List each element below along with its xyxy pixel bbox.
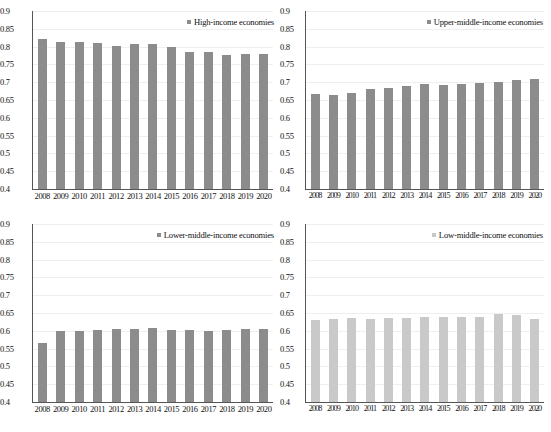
x-axis-labels: 2008200920102011201220132014201520162017… bbox=[306, 192, 544, 200]
y-axis-tick-label: 0.75 bbox=[280, 60, 303, 69]
x-axis-tick-label: 2013 bbox=[398, 405, 416, 413]
bar bbox=[148, 44, 157, 189]
x-axis-tick-label: 2010 bbox=[70, 192, 88, 201]
bar-slot bbox=[218, 11, 236, 189]
bar-series bbox=[33, 11, 273, 189]
y-axis-tick-label: 0.8 bbox=[0, 42, 30, 51]
x-axis-tick-label: 2017 bbox=[471, 192, 489, 200]
y-axis-tick-label: 0.4 bbox=[0, 398, 30, 407]
bar bbox=[494, 82, 503, 190]
x-axis-tick-label: 2020 bbox=[526, 192, 544, 200]
bar-slot bbox=[144, 224, 162, 402]
legend-label: High-income economies bbox=[194, 18, 274, 27]
y-axis-tick-label: 0.65 bbox=[280, 96, 303, 105]
y-axis-tick-label: 0.5 bbox=[0, 149, 30, 158]
bar-series bbox=[33, 224, 273, 402]
bar bbox=[130, 44, 139, 189]
x-axis-line bbox=[32, 189, 273, 190]
bar bbox=[311, 320, 320, 402]
x-axis-tick-label: 2012 bbox=[107, 405, 125, 414]
bar-slot bbox=[306, 224, 324, 402]
x-axis-line bbox=[32, 402, 273, 403]
y-axis-tick-label: 0.65 bbox=[0, 96, 30, 105]
bar bbox=[204, 52, 213, 189]
bar bbox=[93, 330, 102, 402]
bar-slot bbox=[254, 11, 272, 189]
y-axis-tick-label: 0.4 bbox=[0, 185, 30, 194]
panel-lower-middle-income: 0.90.850.80.750.70.650.60.550.50.450.420… bbox=[0, 210, 280, 432]
y-axis-tick-label: 0.4 bbox=[280, 398, 303, 407]
y-axis-tick-label: 0.7 bbox=[280, 78, 303, 87]
bar-slot bbox=[70, 224, 88, 402]
x-axis-tick-label: 2011 bbox=[361, 192, 379, 200]
bar bbox=[530, 319, 539, 402]
x-axis-tick-label: 2015 bbox=[434, 405, 452, 413]
bar-slot bbox=[218, 224, 236, 402]
bar-slot bbox=[379, 11, 397, 189]
y-axis-tick-label: 0.8 bbox=[280, 255, 303, 264]
bar-slot bbox=[199, 224, 217, 402]
bar-slot bbox=[434, 11, 452, 189]
bar-slot bbox=[88, 11, 106, 189]
bar bbox=[384, 88, 393, 189]
y-axis-tick-label: 0.55 bbox=[0, 131, 30, 140]
bar-slot bbox=[471, 11, 489, 189]
y-axis-tick-label: 0.65 bbox=[280, 309, 303, 318]
bar bbox=[494, 314, 503, 402]
bar bbox=[241, 329, 250, 402]
x-axis-line bbox=[305, 402, 544, 403]
y-axis-tick-label: 0.45 bbox=[0, 167, 30, 176]
x-axis-tick-label: 2014 bbox=[144, 192, 162, 201]
y-axis-tick-label: 0.75 bbox=[0, 60, 30, 69]
bar bbox=[457, 317, 466, 402]
bar bbox=[75, 331, 84, 402]
x-axis-tick-label: 2017 bbox=[199, 405, 217, 414]
legend-label: Low-middle-income economies bbox=[439, 231, 543, 240]
x-axis-tick-label: 2009 bbox=[51, 405, 69, 414]
bar bbox=[259, 329, 268, 402]
bar bbox=[475, 83, 484, 189]
panel-high-income: 0.90.850.80.750.70.650.60.550.50.450.420… bbox=[0, 0, 280, 210]
bar bbox=[475, 317, 484, 402]
y-axis-tick-label: 0.6 bbox=[0, 327, 30, 336]
bar-slot bbox=[397, 224, 415, 402]
x-axis-tick-label: 2013 bbox=[398, 192, 416, 200]
x-axis-labels: 2008200920102011201220132014201520162017… bbox=[33, 405, 273, 414]
y-axis-tick-label: 0.6 bbox=[280, 327, 303, 336]
x-axis-tick-label: 2010 bbox=[343, 405, 361, 413]
bar bbox=[439, 317, 448, 402]
bar bbox=[185, 52, 194, 189]
bar bbox=[130, 329, 139, 402]
bar-slot bbox=[125, 11, 143, 189]
bar bbox=[366, 89, 375, 189]
bar bbox=[112, 329, 121, 402]
bar bbox=[347, 318, 356, 402]
bar-slot bbox=[181, 11, 199, 189]
y-axis-tick-label: 0.4 bbox=[280, 185, 303, 194]
bar bbox=[167, 47, 176, 189]
bar-slot bbox=[88, 224, 106, 402]
bar-slot bbox=[416, 11, 434, 189]
legend-swatch-icon bbox=[187, 20, 191, 24]
bar-slot bbox=[507, 11, 525, 189]
bar bbox=[530, 79, 539, 189]
x-axis-tick-label: 2017 bbox=[199, 192, 217, 201]
bar-slot bbox=[162, 11, 180, 189]
y-axis-tick-label: 0.8 bbox=[280, 42, 303, 51]
panel-upper-middle-income: 0.90.850.80.750.70.650.60.550.50.450.420… bbox=[280, 0, 551, 210]
bar bbox=[384, 318, 393, 402]
bar-slot bbox=[416, 224, 434, 402]
y-axis-tick-label: 0.85 bbox=[0, 25, 30, 34]
bar-slot bbox=[236, 11, 254, 189]
x-axis-tick-label: 2015 bbox=[162, 405, 180, 414]
bar-slot bbox=[181, 224, 199, 402]
x-axis-tick-label: 2016 bbox=[453, 192, 471, 200]
chart-legend: High-income economies bbox=[187, 18, 274, 27]
bar-slot bbox=[254, 224, 272, 402]
x-axis-tick-label: 2020 bbox=[526, 405, 544, 413]
bar-slot bbox=[125, 224, 143, 402]
y-axis-tick-label: 0.45 bbox=[280, 167, 303, 176]
x-axis-tick-label: 2008 bbox=[306, 192, 324, 200]
bar bbox=[347, 93, 356, 189]
bar-slot bbox=[107, 11, 125, 189]
